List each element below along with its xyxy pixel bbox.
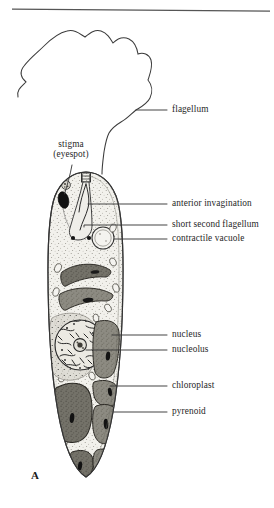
label-anterior-invagination: anterior invagination [172, 198, 252, 208]
label-flagellum: flagellum [172, 104, 209, 114]
nucleolus-structure [74, 339, 87, 352]
euglena-figure: flagellum stigma (eyespot) anterior inva… [0, 0, 274, 508]
label-contractile-vacuole: contractile vacuole [172, 233, 244, 243]
label-nucleolus: nucleolus [172, 344, 209, 354]
basal-body-right [87, 236, 91, 240]
panel-letter: A [31, 469, 39, 481]
label-pyrenoid: pyrenoid [172, 406, 206, 416]
label-stigma-line1: stigma [37, 139, 105, 149]
top-rule [12, 9, 270, 11]
basal-body-left [71, 236, 75, 240]
chloroplast-right-mid [93, 320, 119, 378]
label-stigma-line2: (eyespot) [37, 149, 105, 159]
label-stigma: stigma (eyespot) [37, 139, 105, 159]
label-chloroplast: chloroplast [172, 380, 214, 390]
label-nucleus: nucleus [172, 329, 201, 339]
label-short-second-flagellum: short second flagellum [172, 219, 259, 229]
cell-body [48, 168, 126, 480]
euglena-diagram-canvas [0, 0, 274, 508]
